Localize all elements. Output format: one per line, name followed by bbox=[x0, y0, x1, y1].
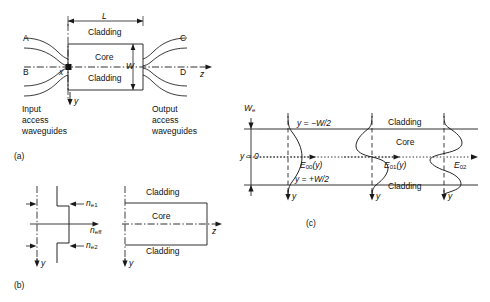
y-axis-label-a: y bbox=[74, 97, 78, 107]
ne1-label: ne1 bbox=[86, 199, 98, 209]
port-c-label: C bbox=[180, 34, 186, 44]
port-a-label: A bbox=[23, 34, 29, 44]
ne2-label: ne2 bbox=[86, 241, 98, 251]
caption-a: (a) bbox=[14, 152, 24, 162]
port-d-label: D bbox=[180, 68, 186, 78]
core-label-a: Core bbox=[95, 53, 113, 63]
z-axis-label-a: z bbox=[200, 70, 204, 80]
x-axis-label-a: x bbox=[59, 68, 63, 78]
input-port-marker bbox=[66, 64, 72, 70]
port-b-label: B bbox=[23, 68, 29, 78]
output-access-text: Output access waveguides bbox=[152, 104, 197, 137]
core-label-c: Core bbox=[396, 138, 414, 148]
mode0-label: E00(y) bbox=[300, 161, 322, 171]
z-axis-label-b: z bbox=[212, 227, 216, 237]
y-bottom-label: y = +W/2 bbox=[295, 175, 329, 185]
y-top-label: y = −W/2 bbox=[297, 119, 331, 129]
y-axis-label-b-left: y bbox=[41, 259, 45, 269]
y-zero-label: y = 0 bbox=[240, 152, 259, 162]
y-axis-label-c-1: y bbox=[292, 192, 296, 202]
cladding-top-label-b: Cladding bbox=[146, 188, 180, 198]
y-axis-label-b-right: y bbox=[129, 259, 133, 269]
we-label: We bbox=[244, 104, 255, 114]
y-axis-label-c-2: y bbox=[376, 192, 380, 202]
neff-label: neff bbox=[90, 226, 101, 236]
cladding-bottom-label-b: Cladding bbox=[146, 247, 180, 257]
mode2-label: E02 bbox=[454, 161, 466, 171]
cladding-top-label-a: Cladding bbox=[88, 28, 122, 38]
caption-c: (c) bbox=[306, 219, 316, 229]
cladding-bottom-label-a: Cladding bbox=[88, 74, 122, 84]
core-label-b: Core bbox=[152, 212, 170, 222]
input-access-text: Input access waveguides bbox=[22, 104, 67, 137]
cladding-top-label-c: Cladding bbox=[388, 118, 422, 128]
width-label: W bbox=[126, 62, 134, 72]
mode1-label: E01(y) bbox=[384, 161, 406, 171]
cladding-bottom-label-c: Cladding bbox=[388, 182, 422, 192]
length-label: L bbox=[102, 12, 107, 22]
caption-b: (b) bbox=[14, 281, 24, 291]
y-axis-label-c-3: y bbox=[448, 192, 452, 202]
